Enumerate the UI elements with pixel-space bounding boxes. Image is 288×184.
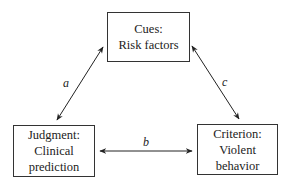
node-judgment: Judgment: Clinical prediction [13,125,95,177]
edge-c-label: c [222,75,227,90]
node-judgment-title: Judgment: [28,127,80,143]
node-cues: Cues: Risk factors [107,12,190,62]
edge-c-arrow [192,46,239,119]
node-criterion: Criterion: Violent behavior [197,124,278,175]
node-cues-subtitle: Risk factors [118,37,178,53]
node-cues-title: Cues: [134,21,162,37]
node-judgment-line2: Clinical [34,143,74,159]
edge-a-label: a [63,76,69,91]
node-criterion-title: Criterion: [213,126,262,142]
node-criterion-line3: behavior [216,158,260,174]
node-criterion-line2: Violent [219,142,256,158]
edge-b-label: b [143,135,149,150]
node-judgment-line3: prediction [29,159,80,175]
